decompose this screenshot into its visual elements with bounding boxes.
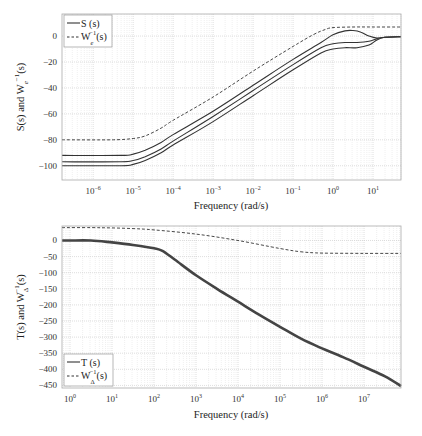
y-tick-label: −20	[43, 57, 58, 67]
y-tick-label: −350	[38, 348, 57, 358]
x-axis-label: Frequency (rad/s)	[194, 200, 269, 212]
legend-label-s: S (s)	[81, 18, 100, 30]
y-tick-label: −60	[43, 109, 58, 119]
y-tick-label: −200	[38, 300, 57, 310]
x-tick-label: 106	[316, 393, 328, 404]
svg-text:S(s) and We−1(s): S(s) and We−1(s)	[13, 62, 30, 131]
x-tick-label: 10−4	[165, 185, 180, 196]
legend: S (s) We−1(s)	[64, 15, 112, 47]
x-tick-label: 105	[274, 393, 286, 404]
y-tick-label: −50	[43, 252, 58, 262]
sensitivity-plot: 10−610−510−410−310−210−11001010−20−40−60…	[13, 14, 401, 212]
response-curve	[62, 30, 401, 155]
y-tick-label: −150	[38, 284, 57, 294]
y-tick-label: −400	[38, 364, 57, 374]
weight-curve	[62, 27, 401, 140]
x-tick-label: 10−6	[85, 185, 100, 196]
y-tick-label: −100	[38, 161, 57, 171]
x-tick-label: 10−2	[245, 185, 260, 196]
y-axis-label: T(s) and WΔ−1(s)	[13, 274, 30, 340]
x-axis-label: Frequency (rad/s)	[194, 409, 269, 421]
x-tick-label: 100	[327, 185, 339, 196]
y-tick-label: −300	[38, 332, 57, 342]
response-curve	[62, 37, 401, 166]
y-tick-label: −40	[43, 83, 58, 93]
legend-label-t: T (s)	[81, 357, 100, 369]
figure: 10−610−510−410−310−210−11001010−20−40−60…	[0, 0, 422, 436]
x-tick-label: 103	[190, 393, 202, 404]
svg-text:T(s) and WΔ−1(s): T(s) and WΔ−1(s)	[13, 274, 30, 340]
y-tick-label: −450	[38, 380, 57, 390]
plot-lines	[62, 27, 401, 166]
x-tick-label: 101	[367, 185, 379, 196]
x-tick-label: 104	[232, 393, 244, 404]
complementary-sensitivity-plot: 1001011021031041051061070−50−100−150−200…	[13, 226, 401, 421]
x-tick-label: 10−5	[125, 185, 140, 196]
x-tick-label: 10−3	[205, 185, 220, 196]
y-tick-label: −100	[38, 268, 57, 278]
x-tick-label: 102	[148, 393, 160, 404]
y-tick-label: −250	[38, 316, 57, 326]
y-tick-label: 0	[53, 235, 58, 245]
y-axis-label: S(s) and We−1(s)	[13, 62, 30, 131]
legend: T (s) WΔ−1(s)	[64, 354, 113, 386]
x-tick-label: 10−1	[285, 185, 300, 196]
x-tick-label: 101	[106, 393, 118, 404]
x-tick-label: 107	[358, 393, 370, 404]
y-tick-label: 0	[53, 31, 58, 41]
x-tick-label: 100	[64, 393, 76, 404]
y-tick-label: −80	[43, 135, 58, 145]
